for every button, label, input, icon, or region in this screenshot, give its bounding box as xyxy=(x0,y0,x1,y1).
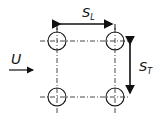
flow-velocity-label: U xyxy=(11,51,21,67)
longitudinal-pitch-label: SL xyxy=(82,5,95,22)
transverse-pitch-dimension: ST xyxy=(130,44,153,93)
tube-bank-diagram: SL ST U xyxy=(0,0,155,116)
transverse-pitch-label: ST xyxy=(139,59,153,76)
longitudinal-pitch-dimension: SL xyxy=(57,5,115,30)
flow-direction: U xyxy=(9,51,33,70)
